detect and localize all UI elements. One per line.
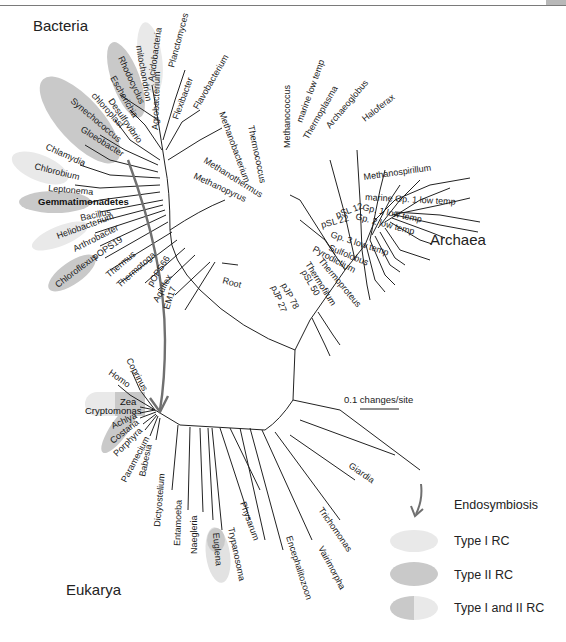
legend-endosymbiosis-label: Endosymbiosis [454, 498, 538, 512]
taxon-label: Coprinus [124, 356, 150, 393]
taxon-label: Flexibacter [170, 76, 194, 121]
phylogenetic-tree: Bacteria Archaea Eukarya Root Acidobacte… [0, 0, 566, 642]
taxon-label: Haloferax [360, 92, 397, 124]
scale-bar-label: 0.1 changes/site [344, 394, 413, 405]
legend-type1-swatch [390, 530, 438, 552]
domain-label-archaea: Archaea [430, 231, 487, 248]
legend-type12-label: Type I and II RC [454, 601, 544, 615]
taxon-label: Dictyostelium [152, 473, 167, 527]
taxon-label: Planctomyces [166, 11, 190, 68]
legend-type12-swatch [390, 596, 438, 620]
taxon-label: Giardia [347, 460, 377, 485]
taxon-label: Vairimorpha [316, 544, 347, 591]
taxon-label: Entamoeba [172, 500, 184, 546]
legend: Endosymbiosis Type I RC Type II RC Type … [390, 484, 544, 620]
taxon-label: Naegleria [189, 515, 199, 554]
endosymbiosis-arrow-icon [416, 484, 421, 514]
legend-type2-swatch [390, 562, 438, 586]
domain-label-eukarya: Eukarya [66, 581, 122, 598]
bacteria-labels: Acidobacteria Planctomyces mitochondrion… [34, 11, 231, 310]
taxon-label: Methanospirillum [363, 163, 432, 182]
root-label: Root [221, 275, 242, 290]
legend-type2-label: Type II RC [454, 568, 513, 582]
taxon-label: Encephalitozoon [284, 535, 314, 601]
root-marker [222, 263, 238, 265]
legend-type1-label: Type I RC [454, 534, 510, 548]
domain-label-bacteria: Bacteria [33, 17, 89, 34]
scale-bar: 0.1 changes/site [344, 394, 413, 409]
taxon-label: Gemmatimonadetes [38, 196, 129, 207]
taxon-label: pSL 22 [320, 213, 350, 230]
taxon-label: Flavobacterium [191, 53, 230, 111]
archaea-labels: Methanobacterium Thermococcus Methanococ… [192, 58, 456, 313]
taxon-label: Agrobacterium [150, 71, 162, 130]
taxon-label: Methanococcus [282, 84, 292, 148]
